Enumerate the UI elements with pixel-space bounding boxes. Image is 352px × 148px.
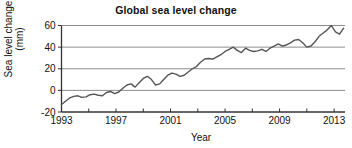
x-tick-label: 1997 — [105, 115, 128, 126]
x-tick-label: 2005 — [214, 115, 237, 126]
sea-level-chart: Global sea level change Sea level change… — [0, 0, 352, 148]
x-tick-label: 2009 — [268, 115, 291, 126]
data-series-line — [62, 26, 344, 105]
y-tick-label: 20 — [44, 63, 56, 74]
plot-area: 6040200-20 199319972001200520092013 — [0, 0, 352, 148]
y-tick-label: 60 — [44, 20, 56, 31]
x-tick-labels: 199319972001200520092013 — [50, 115, 345, 126]
y-tick-label: 40 — [44, 42, 56, 53]
x-tick-label: 2013 — [323, 115, 346, 126]
y-tick-labels: 6040200-20 — [41, 20, 56, 118]
gridlines — [58, 26, 345, 113]
x-tick-label: 2001 — [159, 115, 182, 126]
y-tick-label: 0 — [50, 85, 56, 96]
x-tick-label: 1993 — [50, 115, 73, 126]
